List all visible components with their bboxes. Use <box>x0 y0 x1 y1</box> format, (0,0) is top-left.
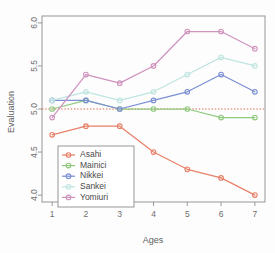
legend-label: Sankei <box>80 181 106 191</box>
x-tick-label: 1 <box>50 209 55 219</box>
legend-label: Mainici <box>80 160 107 170</box>
x-tick-label: 2 <box>84 209 89 219</box>
x-axis-title: Ages <box>143 235 164 245</box>
y-tick-label: 4.5 <box>29 146 39 158</box>
chart-plot-area: 4.04.55.05.56.0 1234567 AsahiMainiciNikk… <box>0 0 275 253</box>
x-tick-label: 6 <box>219 209 224 219</box>
legend-label: Asahi <box>80 149 101 159</box>
legend-label: Yomiuri <box>80 192 108 202</box>
y-tick-label: 6.0 <box>29 17 39 29</box>
x-tick-label: 5 <box>185 209 190 219</box>
y-tick-label: 5.0 <box>29 103 39 115</box>
x-tick-label: 3 <box>117 209 122 219</box>
y-tick-label: 5.5 <box>29 60 39 72</box>
y-axis-title: Evaluation <box>6 91 16 133</box>
x-tick-label: 7 <box>252 209 257 219</box>
chart-screenshot: 4.04.55.05.56.0 1234567 AsahiMainiciNikk… <box>0 0 275 253</box>
y-tick-label: 4.0 <box>29 189 39 201</box>
chart-legend: AsahiMainiciNikkeiSankeiYomiuri <box>58 146 134 207</box>
x-tick-label: 4 <box>151 209 156 219</box>
line-chart: 4.04.55.05.56.0 1234567 AsahiMainiciNikk… <box>0 0 275 253</box>
legend-label: Nikkei <box>80 170 103 180</box>
